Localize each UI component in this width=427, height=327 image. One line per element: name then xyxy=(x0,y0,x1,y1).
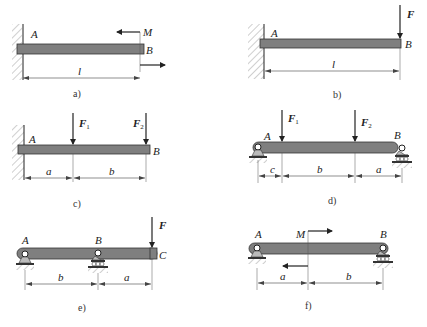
point-label-a: A xyxy=(254,228,262,240)
caption-e: e) xyxy=(78,302,86,314)
point-label-b: B xyxy=(146,44,153,56)
point-label-a: A xyxy=(28,133,36,145)
point-label-a: A xyxy=(270,27,278,39)
load-label-f1: F1 xyxy=(287,112,299,126)
diagram-d: A B F1 F2 c b a d) xyxy=(249,110,412,207)
load-label-f: F xyxy=(406,8,415,20)
load-label-f: F xyxy=(158,219,167,231)
load-label-m: M xyxy=(295,228,306,240)
diagram-c: A B F1 F2 a b c) xyxy=(12,113,160,210)
point-label-b: B xyxy=(380,228,387,240)
dimension-label-b: b xyxy=(317,163,323,175)
load-label-f2: F2 xyxy=(360,116,372,130)
point-label-a: A xyxy=(30,28,38,40)
dimension-label-b: b xyxy=(109,165,115,177)
load-label-f1: F1 xyxy=(78,117,90,131)
beam-diagrams: A B M l a) A B F l b) A B F1 F2 xyxy=(0,0,427,327)
point-label-b: B xyxy=(95,234,102,246)
beam xyxy=(253,142,398,153)
diagram-e: A B C F b a e) xyxy=(16,217,167,314)
beam xyxy=(17,44,144,54)
dimension-label-c: c xyxy=(270,163,275,175)
diagram-a: A B M l a) xyxy=(12,24,165,100)
dimension-label-l: l xyxy=(78,65,81,77)
dimension-label-b: b xyxy=(58,271,64,283)
beam xyxy=(18,145,150,154)
caption-c: c) xyxy=(73,198,81,210)
caption-d: d) xyxy=(328,195,336,207)
point-label-b: B xyxy=(405,38,412,50)
point-label-a: A xyxy=(263,130,271,142)
point-label-b: B xyxy=(394,129,401,141)
fixed-wall xyxy=(248,24,264,79)
load-label-m: M xyxy=(142,26,153,38)
beam xyxy=(260,39,401,48)
caption-f: f) xyxy=(305,300,312,312)
beam xyxy=(17,248,157,259)
dimension-label-a: a xyxy=(46,165,52,177)
dimension-label-b: b xyxy=(346,270,352,282)
load-label-f2: F2 xyxy=(132,117,144,131)
caption-a: a) xyxy=(73,88,81,100)
dimension-label-l: l xyxy=(332,58,335,70)
dimension-label-a: a xyxy=(376,163,382,175)
point-label-c: C xyxy=(159,249,167,261)
diagram-b: A B F l b) xyxy=(248,5,415,101)
dimension-label-a: a xyxy=(280,270,286,282)
dimension-label-a: a xyxy=(124,271,130,283)
beam xyxy=(249,243,388,254)
point-label-b: B xyxy=(153,145,160,157)
point-label-a: A xyxy=(21,234,29,246)
diagram-f: A B M a b f) xyxy=(248,228,393,312)
caption-b: b) xyxy=(333,89,341,101)
